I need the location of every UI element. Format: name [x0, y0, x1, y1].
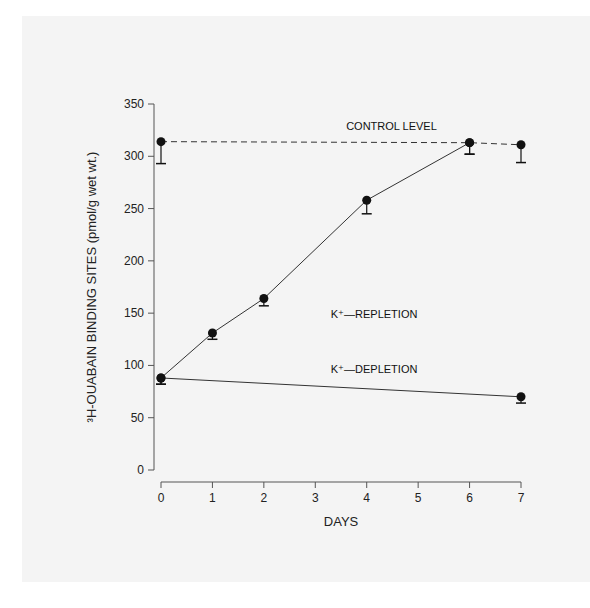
data-point — [517, 140, 526, 149]
y-tick-label: 0 — [137, 463, 144, 477]
y-tick-label: 200 — [124, 254, 144, 268]
x-tick-label: 6 — [466, 491, 473, 505]
y-tick-label: 300 — [124, 149, 144, 163]
annotations: CONTROL LEVELK⁺—REPLETIONK⁺—DEPLETION — [331, 120, 437, 375]
x-tick-label: 1 — [209, 491, 216, 505]
x-tick-label: 0 — [158, 491, 165, 505]
y-tick-label: 350 — [124, 97, 144, 111]
chart: 050100150200250300350 01234567 CONTROL L… — [0, 0, 590, 608]
data-point — [517, 392, 526, 401]
x-axis: 01234567 — [158, 482, 525, 505]
data-point — [465, 138, 474, 147]
y-tick-label: 50 — [131, 411, 145, 425]
y-axis: 050100150200250300350 — [124, 97, 154, 477]
series-k-depletion — [156, 373, 526, 403]
y-axis-label: ³H-OUABAIN BINDING SITES (pmol/g wet wt.… — [84, 152, 99, 423]
y-tick-label: 250 — [124, 202, 144, 216]
series-line — [161, 143, 470, 378]
data-point — [157, 137, 166, 146]
data-point — [208, 329, 217, 338]
x-axis-label: DAYS — [324, 514, 359, 529]
series-line — [161, 378, 521, 397]
data-point — [157, 373, 166, 382]
x-tick-label: 7 — [518, 491, 525, 505]
annotation-label: CONTROL LEVEL — [346, 120, 437, 132]
y-tick-label: 150 — [124, 306, 144, 320]
y-tick-label: 100 — [124, 358, 144, 372]
annotation-label: K⁺—DEPLETION — [331, 363, 418, 375]
data-point — [362, 196, 371, 205]
x-tick-label: 2 — [261, 491, 268, 505]
x-tick-label: 5 — [415, 491, 422, 505]
annotation-label: K⁺—REPLETION — [331, 308, 418, 320]
x-tick-label: 3 — [312, 491, 319, 505]
series-k-repletion — [156, 138, 475, 384]
x-tick-label: 4 — [363, 491, 370, 505]
data-point — [259, 294, 268, 303]
